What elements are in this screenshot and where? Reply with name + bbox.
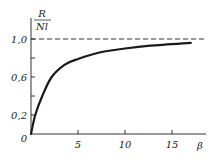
y-tick-label: 1,0 — [11, 34, 28, 45]
y-axis-title-denominator: Nl — [35, 21, 48, 32]
data-line — [31, 43, 191, 134]
x-tick-label: 15 — [166, 139, 179, 150]
x-tick-label: 5 — [75, 139, 81, 150]
y-tick-label: 0,2 — [11, 110, 27, 121]
x-axis-title: β — [196, 140, 203, 151]
y-tick-label: 0 — [21, 133, 28, 144]
x-tick-label: 10 — [119, 139, 132, 150]
chart-canvas: R Nl β 5101500,20,61,0 — [0, 0, 221, 157]
y-axis-title-numerator: R — [37, 8, 46, 19]
y-tick-label: 0,6 — [11, 72, 28, 83]
tick-group: 5101500,20,61,0 — [11, 34, 178, 150]
